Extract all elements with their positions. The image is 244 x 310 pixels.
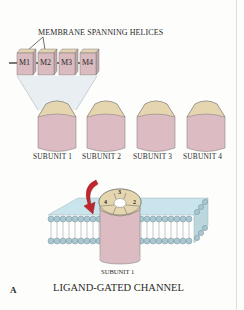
subunit-4-shape (187, 101, 225, 152)
segment-2-label: 2 (133, 199, 136, 205)
panel-letter: A (10, 285, 17, 295)
subunit-4-label: SUBUNIT 4 (183, 152, 222, 161)
subunit-2-shape (87, 101, 125, 152)
subunit-1-shape (38, 101, 76, 152)
subunit-3-shape (137, 101, 175, 152)
helix-label-m1: M1 (19, 58, 30, 67)
helix-label-m4: M4 (82, 58, 93, 67)
helix-label-m2: M2 (40, 58, 51, 67)
figure-caption: LIGAND-GATED CHANNEL (53, 282, 184, 293)
segment-4-label: 4 (104, 199, 107, 205)
assembled-subunit-label: SUBUNIT 1 (101, 268, 134, 275)
subunit-1-label: SUBUNIT 1 (33, 152, 72, 161)
subunit-2-label: SUBUNIT 2 (82, 152, 121, 161)
segment-3-label: 3 (118, 189, 121, 195)
helices-title: MEMBRANE SPANNING HELICES (38, 28, 163, 37)
subunit-3-label: SUBUNIT 3 (133, 152, 172, 161)
helix-label-m3: M3 (61, 58, 72, 67)
